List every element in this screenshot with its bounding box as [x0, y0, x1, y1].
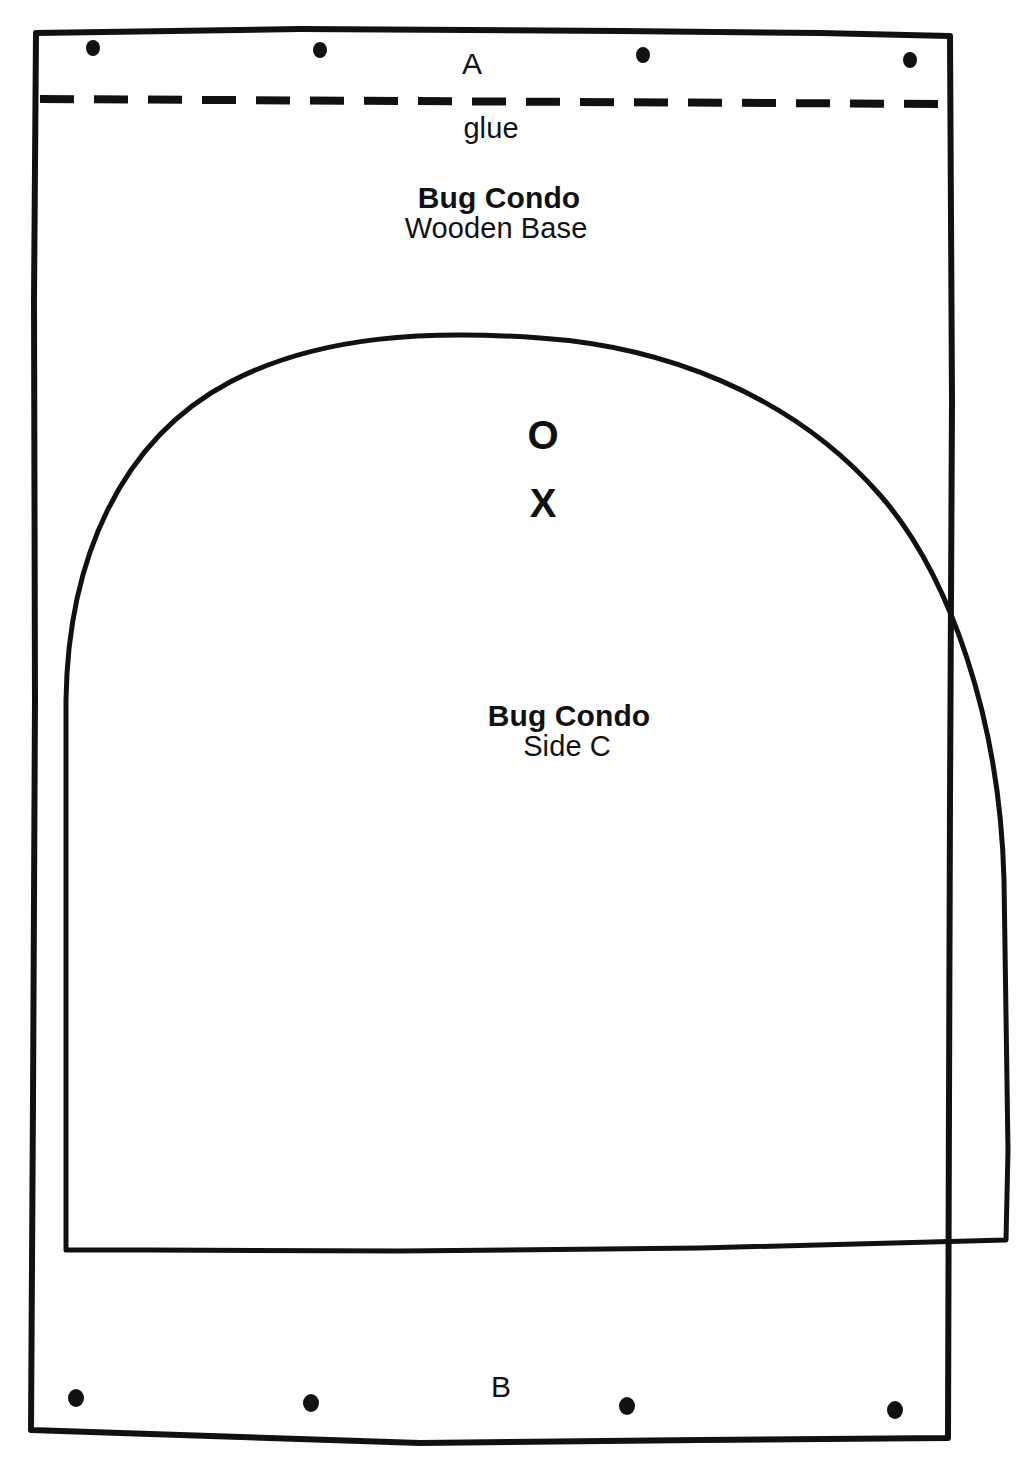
glue-fold-line: [40, 99, 946, 104]
bottom-hole-row: [68, 1389, 903, 1419]
circle-mark: O: [527, 415, 558, 455]
hole-dot: [619, 1397, 635, 1415]
hole-dot: [303, 1394, 319, 1412]
hole-dot: [887, 1401, 903, 1419]
hole-dot: [313, 42, 327, 58]
side-c-subtitle: Side C: [523, 729, 611, 763]
hole-dot: [68, 1389, 84, 1407]
top-hole-row: [86, 40, 917, 68]
side-c-arch-outline: [66, 335, 1008, 1251]
hole-dot: [903, 52, 917, 68]
edge-label-a: A: [462, 46, 482, 81]
edge-label-b: B: [491, 1369, 511, 1404]
hole-dot: [636, 47, 650, 63]
bug-condo-template-page: A B glue Bug Condo Wooden Base Bug Condo…: [0, 0, 1020, 1473]
wooden-base-subtitle: Wooden Base: [405, 211, 588, 245]
glue-label: glue: [463, 111, 518, 145]
hole-dot: [86, 40, 100, 56]
cross-mark: X: [530, 483, 557, 523]
